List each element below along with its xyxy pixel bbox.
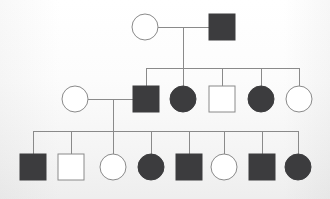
individual-III-7-male-affected[interactable] <box>249 154 275 180</box>
individual-symbols-layer <box>20 14 312 180</box>
individual-III-6-female-unaffected[interactable] <box>211 154 237 180</box>
individual-I-1-female-unaffected[interactable] <box>132 14 158 40</box>
individual-III-4-female-affected[interactable] <box>138 154 164 180</box>
individual-II-3-male-unaffected[interactable] <box>209 86 235 112</box>
individual-II-0-female-unaffected[interactable] <box>62 86 88 112</box>
individual-III-1-male-affected[interactable] <box>20 154 46 180</box>
individual-II-4-female-affected[interactable] <box>248 86 274 112</box>
individual-II-2-female-affected[interactable] <box>170 86 196 112</box>
individual-I-2-male-affected[interactable] <box>209 14 235 40</box>
pedigree-chart <box>0 0 330 199</box>
individual-III-2-male-unaffected[interactable] <box>58 154 84 180</box>
individual-III-3-female-unaffected[interactable] <box>100 154 126 180</box>
individual-II-1-male-affected[interactable] <box>133 86 159 112</box>
individual-III-8-female-affected[interactable] <box>285 154 311 180</box>
individual-II-5-female-unaffected[interactable] <box>286 86 312 112</box>
pedigree-canvas <box>0 0 330 199</box>
individual-III-5-male-affected[interactable] <box>176 154 202 180</box>
